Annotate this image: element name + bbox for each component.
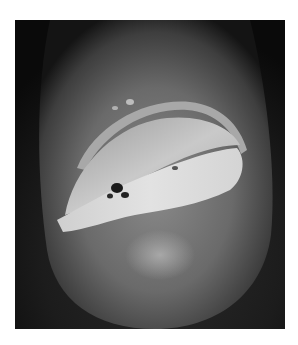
rim-debris — [126, 99, 134, 105]
lesion-dark-spot — [107, 194, 113, 199]
lesion-dark-spot — [111, 183, 123, 193]
pulp-highlight — [125, 230, 195, 280]
clinical-photo — [15, 20, 285, 329]
photo-illustration — [15, 20, 285, 329]
lesion-dark-spot — [172, 166, 178, 170]
rim-debris — [112, 106, 118, 110]
lesion-dark-spot — [121, 192, 129, 198]
